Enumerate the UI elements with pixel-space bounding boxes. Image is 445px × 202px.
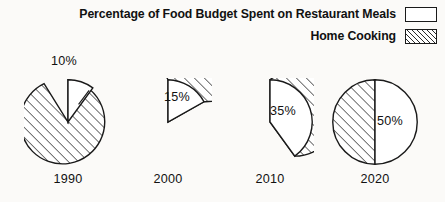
pie-svg-1990 — [24, 78, 112, 166]
legend-swatch-home-cooking-icon — [405, 29, 437, 44]
pie-chart-figure: Percentage of Food Budget Spent on Resta… — [0, 0, 445, 202]
wedge-home-cooking — [333, 80, 375, 164]
pie-chart-2010: 35% 2010 — [220, 52, 320, 202]
pie-value-label-1990: 10% — [51, 54, 77, 68]
pie-svg-2010 — [226, 78, 314, 166]
pie-chart-row: 10% 1990 15% 2000 — [0, 52, 445, 202]
pie-chart-1990: 10% 1990 — [18, 52, 118, 202]
wedge-home-cooking — [24, 80, 105, 164]
pie-year-label-2020: 2020 — [325, 172, 425, 186]
legend-entry-home-cooking: Home Cooking — [310, 29, 437, 44]
pie-value-label-2020: 50% — [377, 114, 403, 128]
legend-entry-restaurant-meals: Percentage of Food Budget Spent on Resta… — [79, 7, 437, 22]
pie-value-label-2000: 15% — [164, 90, 190, 104]
pie-year-label-2000: 2000 — [118, 172, 218, 186]
pie-value-label-2010: 35% — [270, 104, 296, 118]
legend-label-home-cooking: Home Cooking — [310, 30, 396, 42]
legend-swatch-restaurant-meals-icon — [405, 7, 437, 22]
pie-chart-2000: 15% 2000 — [118, 52, 218, 202]
pie-year-label-2010: 2010 — [220, 172, 320, 186]
chart-title: Percentage of Food Budget Spent on Resta… — [79, 8, 396, 20]
pie-year-label-1990: 1990 — [18, 172, 118, 186]
pie-svg-2020 — [331, 78, 419, 166]
pie-chart-2020: 50% 2020 — [325, 52, 425, 202]
